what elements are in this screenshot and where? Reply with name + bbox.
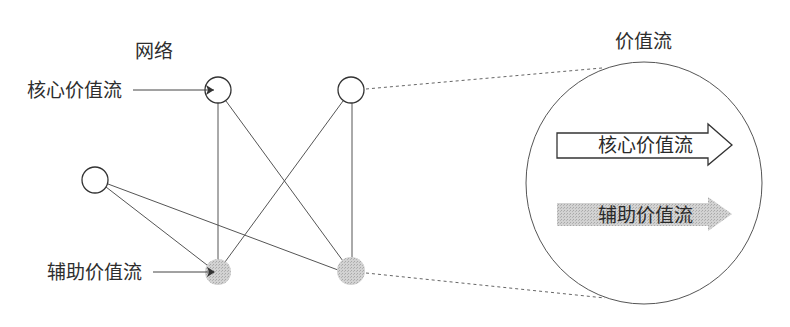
auxiliary-value-stream-label: 辅助价值流: [47, 261, 142, 283]
core-arrow-label: 核心价值流: [570, 134, 720, 156]
value-stream-circle: [526, 62, 762, 304]
value-stream-title: 价值流: [615, 30, 672, 52]
node-core-top-right: [338, 77, 364, 103]
network-title: 网络: [135, 40, 173, 62]
edge-top-right-bottom-left: [225, 101, 343, 262]
auxiliary-arrow-label: 辅助价值流: [570, 204, 720, 226]
core-value-stream-label: 核心价值流: [27, 79, 122, 101]
node-aux-bottom-right: [337, 257, 365, 285]
edge-left-bottom-right: [108, 184, 338, 270]
network-nodes: [82, 77, 365, 285]
node-core-left: [82, 167, 108, 193]
label-pointer-core: [133, 85, 214, 95]
network-edges: [106, 101, 352, 270]
edge-left-bottom-left: [106, 187, 207, 265]
zoom-line-top: [366, 68, 602, 89]
